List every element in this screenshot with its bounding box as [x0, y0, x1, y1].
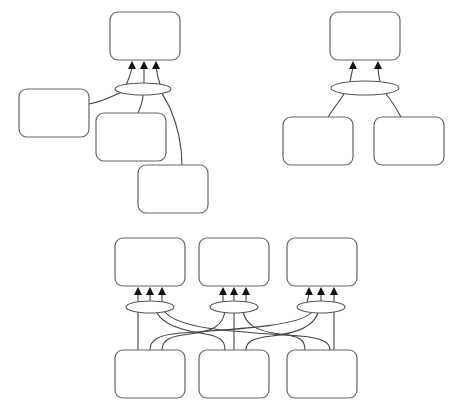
edge-tl-src1-to-junction [89, 92, 122, 104]
source-node[interactable] [115, 350, 185, 398]
arrow-head-icon [140, 61, 148, 69]
panel-top-right [283, 12, 444, 165]
arrow-head-icon [146, 287, 154, 295]
source-node[interactable] [283, 117, 353, 165]
arrow-head-icon [305, 287, 313, 295]
source-node[interactable] [96, 113, 166, 161]
diagram-canvas [0, 0, 457, 413]
arrow-head-icon [230, 287, 238, 295]
arrow-head-icon [330, 287, 338, 295]
target-node[interactable] [330, 12, 400, 60]
edge-b-src2-to-j3 [246, 313, 318, 350]
edge-tl-junction-to-target-3 [156, 67, 160, 84]
arrow-head-icon [317, 287, 325, 295]
source-node[interactable] [19, 89, 89, 137]
target-node[interactable] [199, 238, 269, 286]
panel-bottom [115, 238, 357, 398]
target-node[interactable] [287, 238, 357, 286]
panel-top-left [19, 12, 208, 213]
junction-node[interactable] [115, 83, 171, 95]
edge-tr-junction-to-target-2 [378, 67, 380, 82]
edge-tr-junction-to-target-1 [350, 67, 353, 82]
junction-node[interactable] [210, 301, 258, 313]
target-node[interactable] [115, 238, 185, 286]
edge-tl-junction-to-target-1 [126, 67, 132, 85]
arrow-head-icon [242, 287, 250, 295]
junction-node[interactable] [126, 301, 174, 313]
edge-tl-src2-to-junction [138, 95, 143, 113]
arrow-head-icon [128, 61, 136, 69]
source-node[interactable] [199, 350, 269, 398]
edge-b-src2-to-j1 [157, 313, 225, 350]
edge-tr-src2-to-junction [386, 94, 401, 117]
arrow-head-icon [219, 287, 227, 295]
junction-node[interactable] [331, 81, 399, 95]
source-node[interactable] [138, 165, 208, 213]
source-node[interactable] [374, 117, 444, 165]
arrow-head-icon [374, 61, 382, 69]
target-node[interactable] [110, 12, 180, 60]
arrow-head-icon [152, 61, 160, 69]
edge-tr-src1-to-junction [328, 94, 344, 117]
junction-node[interactable] [297, 301, 345, 313]
arrow-head-icon [349, 61, 357, 69]
arrow-head-icon [158, 287, 166, 295]
diagram-svg [0, 0, 457, 413]
arrow-head-icon [134, 287, 142, 295]
source-node[interactable] [287, 350, 357, 398]
